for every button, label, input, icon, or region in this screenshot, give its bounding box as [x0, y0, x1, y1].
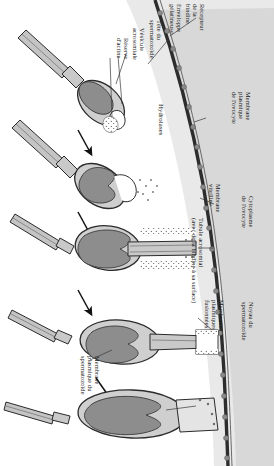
actin-reserve-shape	[103, 116, 118, 132]
diagram-artwork	[0, 0, 274, 466]
stage-3-sperm	[10, 214, 196, 274]
acrosomal-tubule-shape	[128, 241, 196, 256]
label-acrosomal-tubule: Tubule acrosomial (avec de la bindine à …	[191, 218, 205, 303]
label-receptor-bindine: Récepteur de la bindine	[185, 4, 206, 31]
hydrolases-granules	[137, 179, 158, 201]
label-jelly-envelope: Enveloppe gélatineuse	[169, 4, 183, 34]
label-sperm-plasma-membrane: Membrane plasmique du spermatozoïde	[80, 356, 101, 395]
label-sperm-head: Tête du spermatozoïde	[149, 20, 163, 59]
label-acrosomal-vesicle: Vésicule acrosomiale	[132, 28, 146, 60]
stage-5-sperm	[4, 388, 218, 440]
label-actin-reserve: Réserve d'actine	[116, 38, 130, 59]
arrow-1-2	[78, 130, 90, 152]
label-oocyte-cytoplasm: Cytoplasme de l'ovocyte	[241, 196, 255, 228]
arrow-3-4	[78, 290, 90, 312]
label-hydrolases: Hydrolases	[157, 104, 165, 136]
stage-4-sperm	[8, 310, 218, 367]
stage-2-sperm	[12, 120, 158, 218]
label-vitelline-membrane: Membrane vitelline	[208, 184, 222, 212]
label-oocyte-plasma-membrane: Membrane plasmique de l'ovocyte	[231, 92, 252, 124]
label-sperm-nucleus: Noyau du spermatozoïde	[241, 302, 255, 341]
label-fused-plasma-membranes: Membranes plasmiques fusionnées	[204, 300, 225, 331]
figure-canvas: Récepteur de la bindine Enveloppe gélati…	[0, 0, 274, 466]
